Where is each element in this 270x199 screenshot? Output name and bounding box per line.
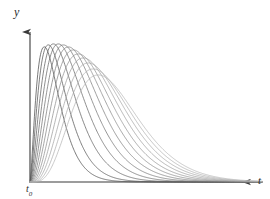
curve-path <box>30 47 262 182</box>
figure-container: y t t0 <box>0 0 270 199</box>
curve-family-plot <box>0 0 270 199</box>
curve-path <box>30 58 262 182</box>
t-origin-subscript: 0 <box>29 190 33 198</box>
t-origin-label: t0 <box>26 184 32 197</box>
t-axis-label: t <box>258 175 261 186</box>
curve-path <box>30 47 262 182</box>
y-axis-label: y <box>14 6 19 18</box>
curve-family <box>30 44 262 182</box>
